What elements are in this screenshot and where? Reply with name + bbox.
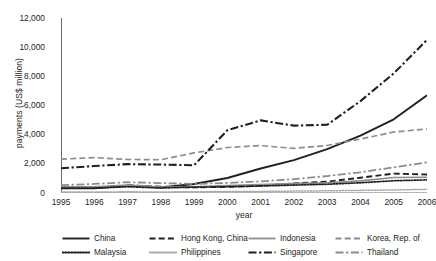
x-axis-title: year bbox=[61, 210, 427, 220]
legend-swatch-solid bbox=[62, 234, 90, 243]
legend-item: Singapore bbox=[248, 248, 335, 257]
series-line-philippines bbox=[61, 189, 427, 192]
legend-swatch-dashed bbox=[335, 234, 363, 243]
legend-label: Indonesia bbox=[280, 234, 316, 243]
chart-legend: ChinaHong Kong, ChinaIndonesiaKorea, Rep… bbox=[62, 231, 422, 259]
series-line-china bbox=[61, 95, 427, 188]
y-tick-label: 0 bbox=[40, 189, 45, 198]
x-tick-label: 2003 bbox=[318, 197, 337, 207]
legend-item: Philippines bbox=[149, 248, 248, 257]
legend-label: Philippines bbox=[181, 248, 221, 257]
y-tick-label: 12,000 bbox=[19, 14, 45, 23]
legend-item: Indonesia bbox=[248, 234, 335, 243]
legend-item: Korea, Rep. of bbox=[335, 234, 422, 243]
legend-swatch-dashed bbox=[149, 234, 177, 243]
y-tick-label: 2,000 bbox=[24, 159, 45, 168]
legend-label: Malaysia bbox=[94, 248, 126, 257]
y-tick-label: 4,000 bbox=[24, 130, 45, 139]
legend-swatch-dotted bbox=[62, 248, 90, 257]
legend-item: Malaysia bbox=[62, 248, 149, 257]
x-tick-label: 1996 bbox=[85, 197, 104, 207]
y-tick-label: 10,000 bbox=[19, 43, 45, 52]
legend-swatch-dashdot bbox=[335, 248, 363, 257]
x-tick-label: 1999 bbox=[185, 197, 204, 207]
axis-lines bbox=[61, 18, 427, 193]
series-line-malaysia bbox=[61, 180, 427, 188]
legend-item: Hong Kong, China bbox=[149, 234, 248, 243]
x-tick-label: 2002 bbox=[285, 197, 304, 207]
x-tick-label: 2001 bbox=[251, 197, 270, 207]
legend-label: Hong Kong, China bbox=[181, 234, 248, 243]
legend-item: Thailand bbox=[335, 248, 422, 257]
legend-label: China bbox=[94, 234, 115, 243]
x-tick-label: 2006 bbox=[418, 197, 436, 207]
y-tick-label: 6,000 bbox=[24, 101, 45, 110]
x-tick-label: 2005 bbox=[384, 197, 403, 207]
y-tick-label: 8,000 bbox=[24, 72, 45, 81]
x-tick-label: 2000 bbox=[218, 197, 237, 207]
x-axis-tick-labels: 1995199619971998199920002001200220032004… bbox=[61, 197, 427, 211]
series-canvas bbox=[61, 18, 427, 193]
legend-swatch-solid bbox=[248, 234, 276, 243]
legend-item: China bbox=[62, 234, 149, 243]
legend-swatch-dotted bbox=[149, 248, 177, 257]
x-tick-label: 2004 bbox=[351, 197, 370, 207]
series-line-korea-rep-of bbox=[61, 129, 427, 160]
series-line-singapore bbox=[61, 40, 427, 168]
legend-label: Thailand bbox=[367, 248, 398, 257]
x-tick-label: 1998 bbox=[151, 197, 170, 207]
x-tick-label: 1997 bbox=[118, 197, 137, 207]
legend-swatch-dashdot bbox=[248, 248, 276, 257]
x-tick-label: 1995 bbox=[52, 197, 71, 207]
legend-label: Korea, Rep. of bbox=[367, 234, 420, 243]
legend-label: Singapore bbox=[280, 248, 317, 257]
y-axis-tick-labels: 02,0004,0006,0008,00010,00012,000 bbox=[0, 0, 56, 210]
plot-area bbox=[61, 18, 427, 193]
